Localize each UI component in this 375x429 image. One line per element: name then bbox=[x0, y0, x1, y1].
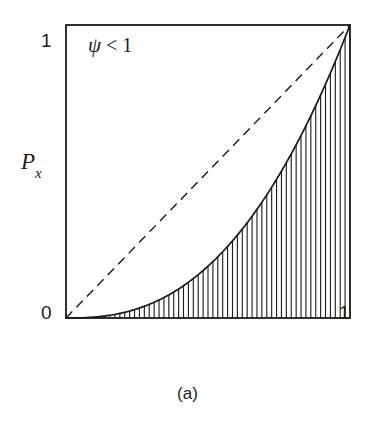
psi-symbol: ψ bbox=[88, 33, 101, 57]
y-axis-label-subscript: x bbox=[35, 165, 42, 181]
psi-condition-annotation: ψ < 1 bbox=[88, 35, 132, 56]
axis-origin-tick: 0 bbox=[41, 303, 52, 322]
figure-container: 1 0 1 Px ψ < 1 (a) bbox=[0, 0, 375, 429]
y-axis-label: Px bbox=[21, 150, 42, 178]
chart-canvas bbox=[0, 0, 375, 429]
x-axis-tick-right: 1 bbox=[339, 303, 350, 322]
y-axis-label-main: P bbox=[21, 149, 35, 174]
y-axis-tick-top: 1 bbox=[41, 31, 52, 50]
psi-relation: < 1 bbox=[101, 34, 132, 56]
figure-caption: (a) bbox=[0, 384, 375, 404]
